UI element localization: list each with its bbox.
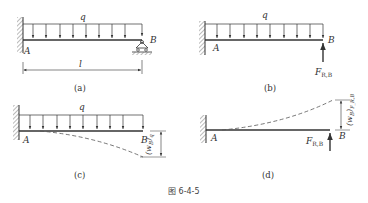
point-label-a: A	[23, 46, 31, 56]
load-label-q: q	[262, 10, 268, 20]
length-dimension	[23, 60, 142, 74]
force-label: FR,B	[305, 136, 324, 147]
panel-a: q A B l (a)	[17, 12, 157, 93]
fixed-wall-icon	[13, 105, 19, 140]
pin-support-icon	[132, 41, 152, 56]
load-label-q: q	[80, 12, 86, 22]
deflection-curve	[222, 100, 333, 130]
distributed-load-icon	[19, 115, 143, 129]
fixed-wall-icon	[200, 115, 206, 143]
panel-b: q A B FR,B (b)	[199, 10, 335, 93]
distributed-load-icon	[205, 24, 323, 38]
point-label-a: A	[210, 133, 218, 143]
force-label: FR,B	[314, 67, 333, 78]
point-label-a: A	[212, 43, 220, 53]
beam-figure: q A B l (a) q A B FR	[0, 0, 368, 203]
deflection-label: (wB)F_R,B	[345, 94, 356, 126]
panel-c: A B q (wB)q (c)	[13, 102, 166, 180]
point-label-b: B	[338, 131, 346, 141]
caption-b: (b)	[264, 83, 276, 93]
deflection-curve	[40, 131, 143, 157]
caption-c: (c)	[74, 170, 85, 180]
length-label: l	[79, 59, 82, 69]
point-label-a: A	[22, 135, 30, 145]
distributed-load-icon	[23, 24, 142, 38]
fixed-wall-icon	[199, 21, 205, 55]
figure-caption: 图 6-4-5	[168, 187, 200, 196]
point-label-b: B	[327, 35, 335, 45]
point-label-b: B	[149, 35, 157, 45]
caption-a: (a)	[74, 83, 86, 93]
fixed-wall-icon	[17, 17, 23, 53]
load-label-q: q	[79, 102, 85, 112]
panel-d: A B FR,B (wB)F_R,B (d)	[200, 94, 356, 180]
caption-d: (d)	[262, 170, 274, 180]
